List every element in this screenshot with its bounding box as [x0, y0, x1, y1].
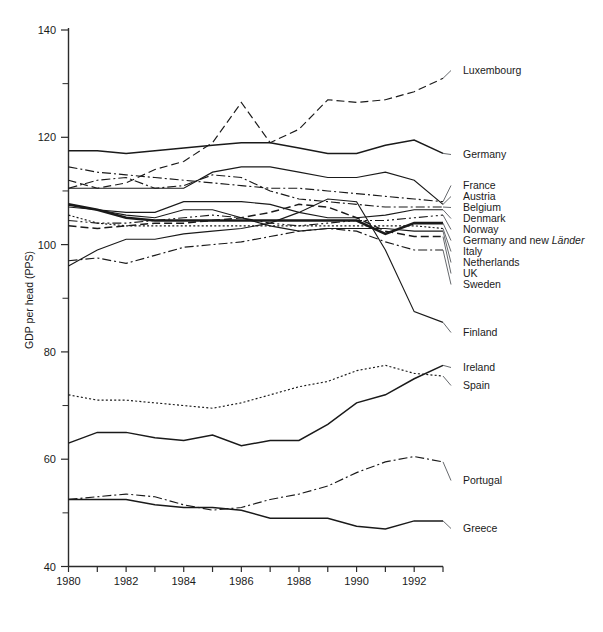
- legend-label-finland: Finland: [463, 326, 498, 338]
- y-tick-label: 40: [44, 561, 56, 573]
- legend-group: LuxembourgGermanyFranceAustriaBelgiumDen…: [463, 64, 585, 534]
- figure-container: 406080100120140 198019821984198619881990…: [0, 0, 603, 632]
- series-line: [69, 167, 444, 205]
- series-line: [69, 365, 444, 408]
- x-tick-label: 1982: [114, 575, 138, 587]
- y-tick-group: [61, 30, 69, 567]
- x-tick-label-group: 1980198219841986198819901992: [56, 575, 426, 587]
- x-tick-group: [69, 567, 444, 573]
- x-tick-label: 1988: [287, 575, 311, 587]
- legend-leader-line: [443, 365, 451, 367]
- series-line: [69, 140, 444, 153]
- y-tick-label: 120: [38, 131, 56, 143]
- series-line: [69, 365, 444, 445]
- legend-label-spain: Spain: [463, 379, 490, 391]
- leader-line-group: [443, 71, 451, 529]
- legend-leader-line: [443, 521, 451, 529]
- y-tick-label: 140: [38, 24, 56, 36]
- x-tick-label: 1990: [344, 575, 368, 587]
- y-tick-label: 60: [44, 453, 56, 465]
- legend-leader-line: [443, 376, 451, 385]
- legend-leader-line: [443, 153, 451, 154]
- y-tick-label: 80: [44, 346, 56, 358]
- x-tick-label: 1992: [402, 575, 426, 587]
- legend-label-luxembourg: Luxembourg: [463, 64, 522, 76]
- y-tick-label: 100: [38, 239, 56, 251]
- legend-label-germany: Germany: [463, 148, 507, 160]
- y-axis-title: GDP per head (PPS): [23, 251, 35, 349]
- series-group: [69, 78, 444, 529]
- legend-leader-line: [443, 186, 451, 202]
- legend-label-sweden: Sweden: [463, 278, 501, 290]
- legend-leader-line: [443, 197, 451, 205]
- legend-leader-line: [443, 462, 451, 481]
- legend-label-greece: Greece: [463, 522, 498, 534]
- legend-label-ireland: Ireland: [463, 361, 495, 373]
- line-chart: 406080100120140 198019821984198619881990…: [0, 0, 603, 632]
- series-line: [69, 457, 444, 511]
- legend-leader-line: [443, 322, 451, 332]
- series-line: [69, 204, 444, 234]
- series-line: [69, 175, 444, 207]
- axis-group: [69, 28, 444, 567]
- y-tick-label-group: 406080100120140: [38, 24, 56, 573]
- legend-leader-line: [443, 71, 451, 79]
- legend-label-portugal: Portugal: [463, 474, 502, 486]
- x-tick-label: 1984: [171, 575, 195, 587]
- x-tick-label: 1980: [56, 575, 80, 587]
- x-tick-label: 1986: [229, 575, 253, 587]
- series-line: [69, 78, 444, 188]
